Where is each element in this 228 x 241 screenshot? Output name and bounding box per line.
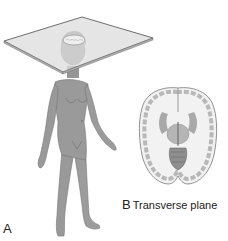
transverse-plane xyxy=(4,17,153,74)
brain-cross-section xyxy=(139,88,216,184)
panel-b-caption: Transverse plane xyxy=(133,199,218,211)
panel-b-label: BTransverse plane xyxy=(122,198,217,211)
panel-b-letter: B xyxy=(122,197,131,212)
panel-a-letter: A xyxy=(3,222,12,235)
anatomy-figure: BTransverse plane A xyxy=(0,0,228,241)
